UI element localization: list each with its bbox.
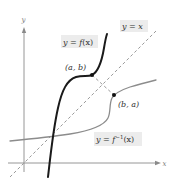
label-f-arg: (x) [82,38,93,47]
inverse-function-diagram: x y y = f(x) (a, b) y = x (b, a) y = f−1… [0,0,175,182]
inverse-function-curve [10,80,156,141]
label-inverse: y = f−1(x) [94,132,142,146]
label-point-a-b: (a, b) [65,63,86,72]
x-axis-arrow-icon [155,161,161,165]
label-identity: y = x [120,20,148,32]
label-inverse-superscript: −1 [115,134,123,140]
point-a-b-marker [90,73,94,77]
function-curve [48,34,107,177]
label-f-text: y = f(x) [62,38,93,47]
reflection-connector-line [92,75,114,95]
label-f: y = f(x) [61,35,98,48]
x-axis-label: x [163,160,167,168]
point-b-a-marker [112,93,116,97]
label-point-b-a: (b, a) [118,100,139,109]
label-inverse-text: y = f−1(x) [95,134,134,144]
label-inverse-prefix: y = [95,135,112,144]
y-axis-label: y [21,16,27,24]
label-inverse-arg: (x) [123,135,134,144]
y-axis-arrow-icon [22,27,26,33]
label-f-prefix: y = [62,38,79,47]
label-identity-text: y = x [121,22,143,31]
